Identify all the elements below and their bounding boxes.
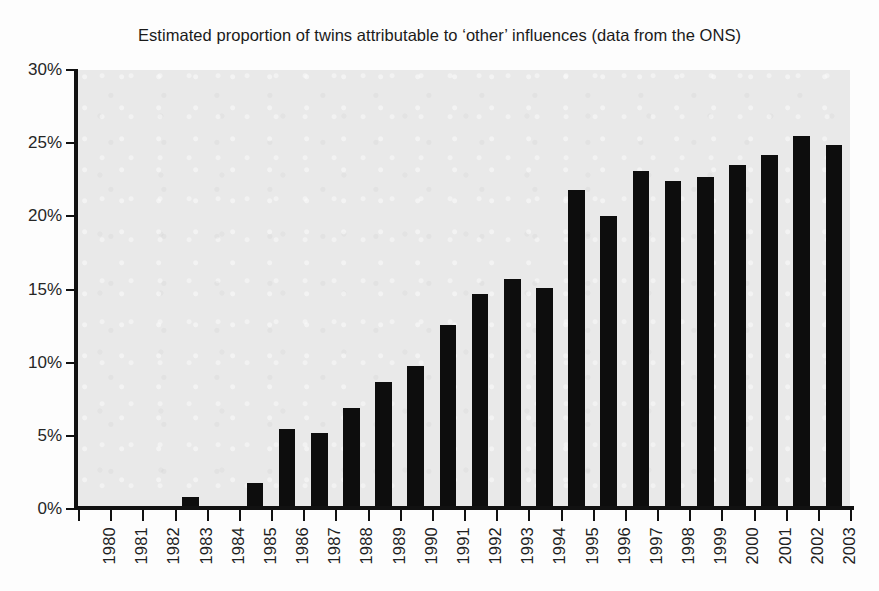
x-axis-tick	[689, 510, 691, 521]
y-axis-label: 20%	[28, 206, 62, 226]
y-axis-tick	[66, 215, 75, 217]
bar	[504, 279, 521, 509]
x-axis-label: 1984	[229, 527, 248, 565]
y-axis-label: 30%	[28, 60, 62, 80]
x-axis-label: 1981	[132, 527, 151, 565]
bar	[343, 408, 360, 509]
bar	[665, 181, 682, 509]
x-axis-tick	[625, 510, 627, 521]
bar	[600, 216, 617, 509]
x-axis-label: 1993	[518, 527, 537, 565]
y-axis-tick	[66, 508, 75, 510]
plot-area	[78, 70, 850, 509]
y-axis-label: 25%	[28, 133, 62, 153]
x-axis-label: 1991	[454, 527, 473, 565]
y-axis-tick	[66, 435, 75, 437]
x-axis-tick	[657, 510, 659, 521]
bar	[407, 366, 424, 509]
bar	[536, 288, 553, 509]
y-axis-tick	[66, 142, 75, 144]
x-axis-label: 1987	[325, 527, 344, 565]
bar	[793, 136, 810, 509]
x-axis-tick	[110, 510, 112, 521]
x-axis-label: 1989	[390, 527, 409, 565]
x-axis-label: 1999	[711, 527, 730, 565]
bar	[472, 294, 489, 509]
y-axis-label: 0%	[37, 499, 62, 519]
x-axis-tick	[528, 510, 530, 521]
y-axis-tick	[66, 289, 75, 291]
x-axis-tick	[400, 510, 402, 521]
chart-title: Estimated proportion of twins attributab…	[0, 26, 879, 45]
y-axis-tick	[66, 69, 75, 71]
bar	[375, 382, 392, 509]
x-axis-label: 1990	[422, 527, 441, 565]
x-axis-label: 1983	[197, 527, 216, 565]
x-axis-label: 2001	[776, 527, 795, 565]
x-axis-label: 1994	[550, 527, 569, 565]
x-axis-label: 1988	[357, 527, 376, 565]
y-axis-label: 15%	[28, 280, 62, 300]
x-axis-tick	[142, 510, 144, 521]
x-axis-tick	[207, 510, 209, 521]
x-axis-tick	[786, 510, 788, 521]
bar	[633, 171, 650, 509]
x-axis-tick	[271, 510, 273, 521]
x-axis-tick	[335, 510, 337, 521]
bar	[279, 429, 296, 509]
x-axis-label: 2000	[743, 527, 762, 565]
bar	[761, 155, 778, 509]
x-axis-label: 1995	[583, 527, 602, 565]
x-axis-label: 1985	[261, 527, 280, 565]
x-axis-label: 1998	[679, 527, 698, 565]
x-axis-label: 1986	[293, 527, 312, 565]
x-axis-tick	[175, 510, 177, 521]
bar	[826, 145, 843, 509]
x-axis-tick	[432, 510, 434, 521]
x-axis-tick	[561, 510, 563, 521]
x-axis-label: 1996	[615, 527, 634, 565]
x-axis-tick	[721, 510, 723, 521]
x-axis-label: 2002	[808, 527, 827, 565]
x-axis-tick	[368, 510, 370, 521]
x-axis-tick	[239, 510, 241, 521]
chart-figure: Estimated proportion of twins attributab…	[0, 0, 879, 591]
x-axis-tick	[496, 510, 498, 521]
x-axis-tick	[464, 510, 466, 521]
bar	[311, 433, 328, 509]
x-axis-tick	[850, 510, 852, 521]
x-axis-label: 1992	[486, 527, 505, 565]
x-axis-tick	[754, 510, 756, 521]
x-axis-tick	[303, 510, 305, 521]
bar	[697, 177, 714, 509]
bar	[568, 190, 585, 509]
y-axis-label: 10%	[28, 353, 62, 373]
x-axis-label: 1980	[100, 527, 119, 565]
bar	[440, 325, 457, 509]
y-axis-label: 5%	[37, 426, 62, 446]
x-axis-tick	[818, 510, 820, 521]
bar	[729, 165, 746, 509]
x-axis-label: 1982	[164, 527, 183, 565]
x-axis-tick	[78, 510, 80, 521]
x-axis-label: 2003	[840, 527, 859, 565]
x-axis-tick	[593, 510, 595, 521]
x-axis-label: 1997	[647, 527, 666, 565]
y-axis-tick	[66, 362, 75, 364]
